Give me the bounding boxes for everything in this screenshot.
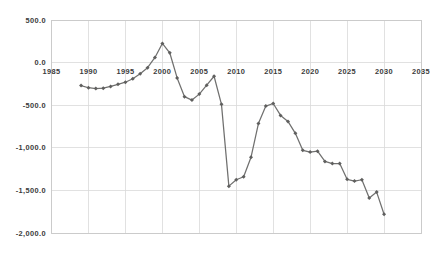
y-tick-label: -2,000.0: [16, 229, 46, 238]
data-point-marker: [352, 179, 356, 183]
data-point-marker: [345, 177, 349, 181]
data-point-marker: [249, 155, 253, 159]
x-tick-label: 2000: [153, 67, 171, 76]
x-tick-label: 2010: [227, 67, 245, 76]
data-point-marker: [175, 76, 179, 80]
data-point-marker: [219, 102, 223, 106]
data-point-marker: [116, 82, 120, 86]
data-point-marker: [360, 178, 364, 182]
y-axis-tick-labels: 500.00.0-500.0-1,000.0-1,500.0-2,000.0: [16, 16, 46, 238]
y-tick-label: -500.0: [23, 101, 46, 110]
chart-container: 500.00.0-500.0-1,000.0-1,500.0-2,000.0 1…: [0, 0, 444, 261]
y-tick-label: 500.0: [26, 16, 47, 25]
x-tick-label: 2005: [190, 67, 208, 76]
data-point-marker: [183, 95, 187, 99]
x-tick-label: 2025: [338, 67, 356, 76]
x-tick-label: 2035: [412, 67, 430, 76]
x-tick-label: 1990: [79, 67, 97, 76]
data-point-marker: [330, 162, 334, 166]
x-tick-label: 2030: [375, 67, 393, 76]
data-point-marker: [338, 162, 342, 166]
x-tick-label: 2015: [264, 67, 282, 76]
data-point-marker: [86, 86, 90, 90]
data-point-marker: [101, 86, 105, 90]
vertical-gridlines: [52, 20, 422, 233]
y-tick-label: -1,500.0: [16, 186, 46, 195]
data-point-marker: [256, 122, 260, 126]
data-point-marker: [264, 104, 268, 108]
x-tick-label: 1995: [116, 67, 134, 76]
line-chart-svg: 500.00.0-500.0-1,000.0-1,500.0-2,000.0 1…: [0, 0, 444, 261]
data-point-marker: [308, 150, 312, 154]
x-tick-label: 2020: [301, 67, 319, 76]
data-point-marker: [382, 212, 386, 216]
data-point-marker: [301, 148, 305, 152]
data-point-marker: [79, 84, 83, 88]
x-tick-label: 1985: [42, 67, 60, 76]
y-tick-label: -1,000.0: [16, 143, 46, 152]
data-point-marker: [94, 87, 98, 91]
data-point-marker: [123, 80, 127, 84]
data-point-marker: [109, 84, 113, 88]
x-axis-tick-labels: 1985199019952000200520102015202020252030…: [42, 67, 430, 76]
data-point-marker: [242, 175, 246, 179]
